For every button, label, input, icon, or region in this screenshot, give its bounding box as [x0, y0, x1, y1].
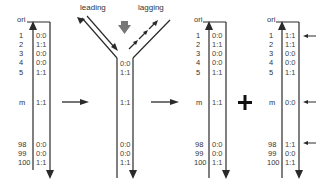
row-label: 100 — [18, 159, 31, 167]
row-label: 4 — [19, 59, 23, 67]
down-arrow-icon — [46, 170, 54, 179]
value: 0:0 — [212, 150, 222, 158]
row-label: 1 — [269, 32, 273, 40]
value: 0:0 — [212, 50, 222, 58]
plus-icon — [238, 95, 252, 110]
row-label: 98 — [268, 141, 276, 149]
replication-diagram: leading lagging ori 1 2 3 4 5 m 98 99 10… — [0, 0, 329, 184]
value: 1:1 — [36, 69, 46, 77]
value: 1:1 — [120, 69, 130, 77]
value: 0:0 — [120, 150, 130, 158]
row-label: 3 — [196, 50, 200, 58]
marker-arrow-icon — [303, 34, 316, 38]
value: 1:1 — [120, 159, 130, 167]
value: 1:1 — [36, 159, 46, 167]
row-label: 100 — [194, 159, 207, 167]
value: 0:0 — [36, 50, 46, 58]
value: 0:0 — [212, 32, 222, 40]
row-label: 100 — [267, 159, 280, 167]
row-label: 99 — [195, 150, 203, 158]
value: 0:0 — [36, 32, 46, 40]
row-label: 5 — [196, 69, 200, 77]
value: 0:0 — [120, 60, 130, 68]
value: 1:1 — [212, 99, 222, 107]
value: 1:1 — [212, 159, 222, 167]
row-label: 2 — [269, 41, 273, 49]
value: 1:1 — [285, 41, 295, 49]
row-label: 4 — [196, 59, 200, 67]
value: 1:1 — [285, 159, 295, 167]
row-label: 99 — [18, 150, 26, 158]
transition-arrow-1 — [62, 99, 89, 105]
ori-label: ori — [194, 16, 202, 24]
value: 1:1 — [212, 69, 222, 77]
value: 0:0 — [212, 141, 222, 149]
row-label: 99 — [268, 150, 276, 158]
row-label: 1 — [196, 32, 200, 40]
value: 0:0 — [36, 141, 46, 149]
row-label: 3 — [19, 50, 23, 58]
value: 0:0 — [285, 150, 295, 158]
value: 0:0 — [285, 50, 295, 58]
value: 1:1 — [120, 99, 130, 107]
row-label: m — [196, 99, 202, 107]
value: 1:1 — [36, 99, 46, 107]
fork-direction-arrow-icon — [118, 21, 131, 34]
value: 0:0 — [212, 59, 222, 67]
marker-arrow-icon — [303, 141, 316, 145]
value: 0:0 — [285, 99, 295, 107]
row-label: 3 — [269, 50, 273, 58]
value: 1:1 — [285, 69, 295, 77]
row-label: m — [19, 99, 25, 107]
row-label: 98 — [18, 141, 26, 149]
value: 0:0 — [120, 141, 130, 149]
diagram-graphics — [0, 0, 329, 184]
value: 0:0 — [36, 59, 46, 67]
ori-label: ori — [267, 16, 275, 24]
row-label: m — [269, 99, 275, 107]
row-label: 2 — [19, 41, 23, 49]
row-label: 2 — [196, 41, 200, 49]
row-label: 98 — [195, 141, 203, 149]
ori-label: ori — [17, 16, 25, 24]
value: 1:1 — [285, 32, 295, 40]
row-label: 5 — [269, 69, 273, 77]
value: 0:0 — [285, 59, 295, 67]
lagging-label: lagging — [138, 3, 164, 12]
value: 1:1 — [212, 41, 222, 49]
daughter-strand-2 — [276, 21, 316, 179]
leading-label: leading — [80, 3, 106, 12]
row-label: 5 — [19, 69, 23, 77]
marker-arrow-icon — [303, 100, 316, 104]
lagging-fragments — [129, 20, 158, 49]
value: 1:1 — [285, 141, 295, 149]
row-label: 4 — [269, 59, 273, 67]
value: 0:0 — [36, 150, 46, 158]
value: 1:1 — [36, 41, 46, 49]
transition-arrow-2 — [151, 99, 179, 105]
row-label: 1 — [19, 32, 23, 40]
